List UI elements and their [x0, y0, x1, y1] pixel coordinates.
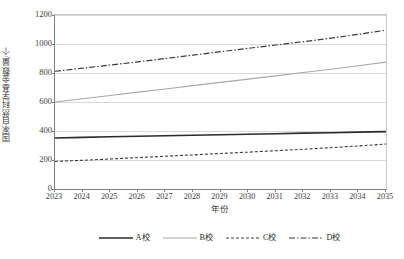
x-tick-label: 2025 [101, 193, 117, 201]
x-tick-label: 2034 [349, 193, 365, 201]
legend-item[interactable]: A校 [99, 233, 150, 243]
x-tick-label: 2031 [266, 193, 282, 201]
y-tick-mark [52, 15, 55, 16]
y-tick-label: 600 [18, 97, 52, 106]
y-tick-label: 800 [18, 68, 52, 77]
y-tick-label: 200 [18, 155, 52, 164]
series-layer [55, 15, 386, 189]
legend-label: A校 [136, 234, 150, 242]
x-tick-label: 2027 [156, 193, 172, 201]
plot-area [54, 14, 387, 190]
y-tick-mark [52, 102, 55, 103]
legend-line-swatch [163, 233, 197, 243]
legend-line-swatch [99, 233, 133, 243]
y-tick-mark [52, 44, 55, 45]
plot-inner [55, 15, 386, 189]
x-tick-label: 2028 [184, 193, 200, 201]
x-tick-label: 2024 [73, 193, 89, 201]
y-tick-mark [52, 160, 55, 161]
legend-label: D校 [326, 234, 340, 242]
x-tick-label: 2030 [239, 193, 255, 201]
legend-label: B校 [200, 234, 213, 242]
legend-item[interactable]: C校 [226, 233, 276, 243]
legend-label: C校 [263, 234, 276, 242]
y-tick-label: 1200 [18, 10, 52, 19]
x-tick-label: 2033 [322, 193, 338, 201]
legend-item[interactable]: D校 [289, 233, 340, 243]
x-axis-title: 年份 [54, 205, 385, 214]
series-line [55, 144, 386, 161]
y-axis-ticks: 020040060080010001200 [14, 0, 52, 259]
chart-legend: A校B校C校D校 [54, 229, 385, 247]
x-tick-label: 2029 [211, 193, 227, 201]
y-tick-mark [52, 131, 55, 132]
legend-line-swatch [226, 233, 260, 243]
y-tick-mark [52, 73, 55, 74]
series-line [55, 62, 386, 102]
y-tick-label: 400 [18, 126, 52, 135]
series-line [55, 132, 386, 138]
legend-line-swatch [289, 233, 323, 243]
x-tick-label: 2032 [294, 193, 310, 201]
y-tick-label: 1000 [18, 39, 52, 48]
x-tick-label: 2023 [46, 193, 62, 201]
y-tick-label: 0 [18, 184, 52, 193]
x-tick-label: 2035 [377, 193, 393, 201]
y-axis-title-text: 国家自然科学基金数量/个 [4, 47, 12, 142]
series-line [55, 30, 386, 71]
legend-item[interactable]: B校 [163, 233, 213, 243]
x-tick-label: 2026 [129, 193, 145, 201]
chart-figure: 国家自然科学基金数量/个 020040060080010001200 20232… [0, 0, 404, 259]
